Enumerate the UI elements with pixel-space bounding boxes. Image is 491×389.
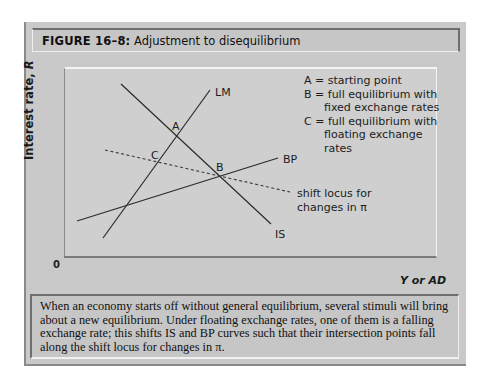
legend-line: C = full equilibrium with	[304, 115, 439, 129]
figure-title: FIGURE 16–8: Adjustment to disequilibriu…	[42, 34, 300, 48]
figure-number: FIGURE 16–8:	[42, 34, 130, 48]
legend-line: A = starting point	[304, 74, 439, 88]
legend-line: fixed exchange rates	[304, 101, 439, 115]
legend: A = starting point B = full equilibrium …	[304, 74, 439, 155]
legend-line: rates	[304, 142, 439, 156]
caption-text: When an economy starts off without gener…	[40, 300, 454, 354]
y-axis-variable: R	[22, 60, 36, 69]
caption-box: When an economy starts off without gener…	[30, 294, 459, 359]
figure-title-text: Adjustment to disequilibrium	[134, 34, 300, 48]
y-axis-label: Interest rate, R	[22, 60, 36, 160]
legend-line: floating exchange	[304, 128, 439, 142]
legend-line: B = full equilibrium with	[304, 88, 439, 102]
origin-label: 0	[53, 259, 60, 270]
figure-title-bar: FIGURE 16–8: Adjustment to disequilibriu…	[32, 28, 460, 52]
y-axis-label-text: Interest rate,	[22, 69, 36, 160]
x-axis-label: Y or AD	[400, 274, 446, 287]
